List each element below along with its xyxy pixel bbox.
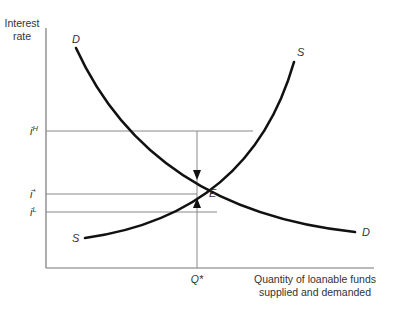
x-tick-qstar: Q*	[191, 273, 204, 285]
demand-label-end: D	[362, 226, 370, 238]
y-tick-istar: i*	[30, 187, 36, 200]
demand-label-start: D	[72, 33, 80, 45]
equilibrium-label: E	[209, 187, 217, 199]
supply-label-end: S	[297, 46, 305, 58]
loanable-funds-chart: Interest rate Quantity of loanable funds…	[0, 0, 397, 309]
y-axis-label-line1: Interest	[4, 17, 39, 29]
supply-label-start: S	[72, 232, 80, 244]
down-arrow	[193, 170, 201, 180]
demand-curve	[76, 48, 355, 232]
x-axis-label-line2: supplied and demanded	[259, 286, 371, 298]
y-tick-il: iL	[30, 205, 37, 218]
x-axis-label-line1: Quantity of loanable funds	[254, 273, 376, 285]
y-axis-label-line2: rate	[13, 30, 31, 42]
y-tick-ih: iH	[30, 124, 38, 137]
